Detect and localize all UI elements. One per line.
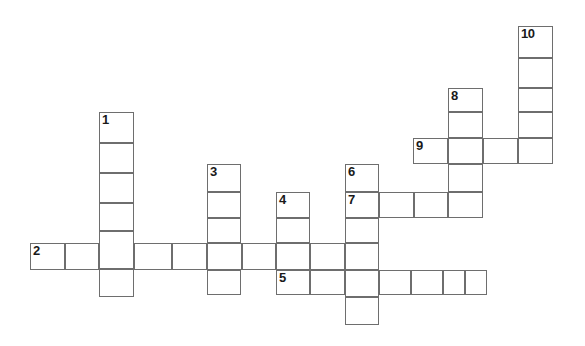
crossword-cell[interactable] [379, 192, 414, 218]
crossword-cell[interactable] [99, 203, 134, 231]
crossword-cell-start-8[interactable]: 8 [448, 88, 483, 112]
crossword-cell[interactable] [345, 297, 379, 325]
crossword-cell[interactable] [465, 270, 487, 295]
crossword-cell[interactable] [207, 243, 242, 270]
crossword-cell[interactable] [345, 218, 379, 243]
crossword-cell[interactable] [443, 270, 465, 295]
crossword-cell[interactable] [65, 243, 99, 270]
clue-number-1: 1 [102, 113, 109, 127]
clue-number-7: 7 [348, 193, 355, 207]
crossword-cell[interactable] [379, 270, 411, 295]
crossword-cell[interactable] [448, 192, 483, 218]
crossword-cell[interactable] [242, 243, 277, 270]
clue-number-3: 3 [210, 165, 217, 179]
crossword-cell[interactable] [411, 270, 443, 295]
clue-number-6: 6 [348, 165, 355, 179]
crossword-cell[interactable] [99, 143, 134, 173]
crossword-cell-start-10[interactable]: 10 [518, 26, 553, 58]
clue-number-10: 10 [521, 27, 534, 41]
crossword-cell-start-4[interactable]: 4 [276, 192, 310, 218]
crossword-cell[interactable] [345, 270, 379, 297]
crossword-cell[interactable] [518, 138, 553, 164]
crossword-cell-start-6[interactable]: 6 [345, 164, 379, 192]
crossword-cell[interactable] [99, 269, 134, 297]
crossword-cell[interactable] [518, 88, 553, 112]
crossword-cell[interactable] [276, 218, 310, 243]
crossword-cell[interactable] [134, 243, 173, 270]
crossword-cell-start-3[interactable]: 3 [207, 164, 241, 192]
crossword-grid: 10896712345 [0, 0, 585, 346]
clue-number-5: 5 [279, 271, 286, 285]
crossword-cell[interactable] [207, 192, 241, 218]
crossword-cell-start-1[interactable]: 1 [99, 112, 134, 143]
crossword-cell[interactable] [448, 112, 483, 138]
crossword-cell-start-7[interactable]: 7 [345, 192, 379, 218]
clue-number-2: 2 [33, 244, 40, 258]
crossword-cell[interactable] [448, 138, 483, 164]
crossword-cell[interactable] [448, 164, 483, 192]
crossword-cell[interactable] [172, 243, 207, 270]
crossword-cell-start-2[interactable]: 2 [30, 243, 65, 270]
crossword-cell[interactable] [99, 231, 134, 269]
crossword-cell[interactable] [207, 218, 241, 243]
crossword-cell[interactable] [207, 270, 241, 295]
crossword-cell[interactable] [518, 112, 553, 138]
crossword-cell[interactable] [310, 270, 345, 295]
clue-number-9: 9 [416, 139, 423, 153]
crossword-cell[interactable] [414, 192, 448, 218]
crossword-cell[interactable] [483, 138, 518, 164]
crossword-cell-start-9[interactable]: 9 [413, 138, 448, 164]
clue-number-8: 8 [451, 89, 458, 103]
crossword-cell[interactable] [310, 243, 345, 270]
crossword-cell-start-5[interactable]: 5 [276, 270, 310, 295]
crossword-cell[interactable] [276, 243, 310, 270]
crossword-cell[interactable] [99, 173, 134, 203]
crossword-cell[interactable] [518, 58, 553, 88]
clue-number-4: 4 [279, 193, 286, 207]
crossword-cell[interactable] [345, 243, 379, 270]
